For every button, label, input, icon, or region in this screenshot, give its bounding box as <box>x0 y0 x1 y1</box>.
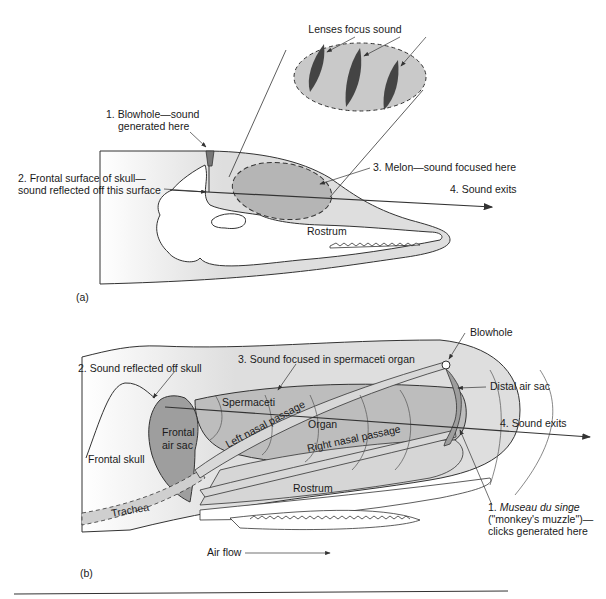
label-frontal-line2: sound reflected off this surface <box>18 184 161 196</box>
label-rostrum-b: Rostrum <box>293 482 333 494</box>
label-sound-exits-a: 4. Sound exits <box>450 183 517 195</box>
label-frontal-air-1: Frontal <box>162 426 195 438</box>
label-museau-line1: 1. Museau du singe <box>488 501 580 513</box>
label-blowhole-b: Blowhole <box>470 326 513 338</box>
label-frontal-air-2: air sac <box>162 439 193 451</box>
label-frontal-skull: Frontal skull <box>88 453 145 465</box>
bottom-rule <box>14 591 508 594</box>
panel-a: Lenses focus sound 1. Blowhole—sound gen… <box>18 23 517 303</box>
label-blowhole-line1: 1. Blowhole—sound <box>106 108 200 120</box>
label-sound-reflected: 2. Sound reflected off skull <box>78 362 202 374</box>
diagram-canvas: Lenses focus sound 1. Blowhole—sound gen… <box>0 0 606 599</box>
panel-b: 2. Sound reflected off skull 3. Sound fo… <box>78 326 594 579</box>
label-organ: Organ <box>308 418 337 430</box>
label-distal-air-sac: Distal air sac <box>490 380 550 392</box>
label-museau-line2: ("monkey's muzzle")— <box>488 513 594 525</box>
label-rostrum-a: Rostrum <box>307 225 347 237</box>
label-air-flow: Air flow <box>207 546 242 558</box>
label-sound-exits-b: 4. Sound exits <box>500 417 567 429</box>
label-museau-line3: clicks generated here <box>488 525 588 537</box>
label-sound-focused: 3. Sound focused in spermaceti organ <box>238 353 415 365</box>
blowhole-b <box>442 361 450 369</box>
label-lenses: Lenses focus sound <box>308 23 402 35</box>
label-melon: 3. Melon—sound focused here <box>373 161 516 173</box>
label-blowhole-line2: generated here <box>118 120 189 132</box>
panel-b-tag: (b) <box>80 567 93 579</box>
label-frontal-line1: 2. Frontal surface of skull— <box>18 172 146 184</box>
label-spermaceti: Spermaceti <box>222 396 275 408</box>
panel-a-tag: (a) <box>76 291 89 303</box>
